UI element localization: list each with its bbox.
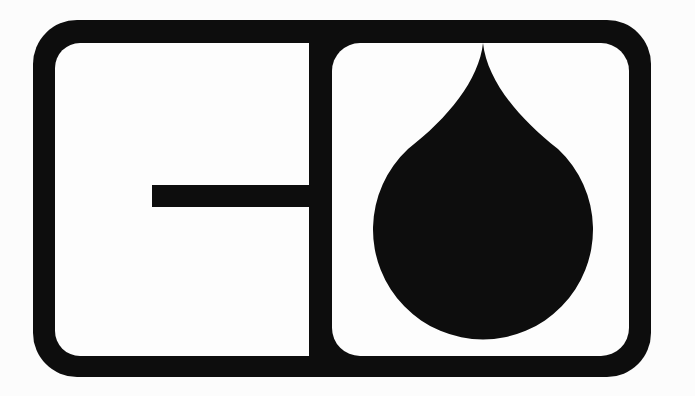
g-crossbar	[152, 185, 312, 207]
logo-canvas	[0, 0, 695, 396]
go-drop-logo	[0, 0, 695, 396]
